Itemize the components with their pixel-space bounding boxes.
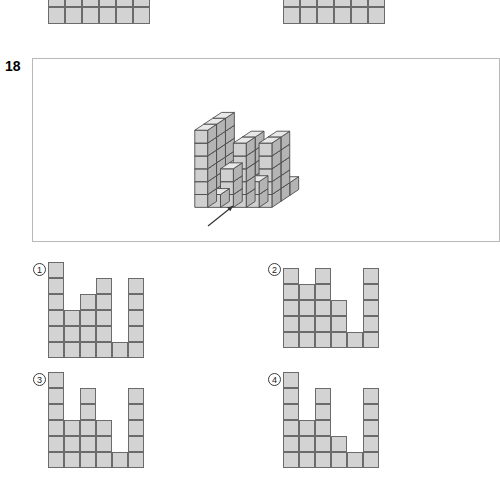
- grid-cell: [300, 7, 317, 24]
- grid-cell: [133, 0, 150, 7]
- grid-cell: [116, 0, 133, 7]
- option-shape-3[interactable]: [48, 372, 144, 468]
- grid-cell: [334, 0, 351, 7]
- grid-cell: [128, 342, 144, 358]
- option-label-2[interactable]: 2: [268, 263, 281, 276]
- grid-cell: [128, 436, 144, 452]
- cube-face: [233, 143, 246, 156]
- grid-cell: [283, 372, 299, 388]
- grid-cell: [315, 284, 331, 300]
- grid-cell: [65, 0, 82, 7]
- grid-cell: [315, 452, 331, 468]
- grid-cell: [112, 342, 128, 358]
- grid-cell: [48, 342, 64, 358]
- grid-cell: [48, 294, 64, 310]
- option-label-4[interactable]: 4: [268, 373, 281, 386]
- grid-cell: [283, 452, 299, 468]
- cube-face: [195, 130, 208, 143]
- grid-cell: [299, 420, 315, 436]
- grid-cell: [80, 294, 96, 310]
- grid-cell: [283, 0, 300, 7]
- grid-cell: [299, 332, 315, 348]
- grid-cell: [80, 436, 96, 452]
- grid-cell: [48, 7, 65, 24]
- grid-cell: [99, 7, 116, 24]
- grid-cell: [48, 404, 64, 420]
- cube-face: [259, 143, 272, 156]
- option-shape-1[interactable]: [48, 262, 144, 358]
- cube-face: [195, 195, 208, 208]
- question-figure-frame: [32, 58, 500, 242]
- option-shape-2[interactable]: [283, 268, 379, 348]
- grid-cell: [116, 7, 133, 24]
- grid-cell: [315, 332, 331, 348]
- option-shape-4[interactable]: [283, 372, 379, 468]
- grid-cell: [99, 0, 116, 7]
- grid-cell: [64, 310, 80, 326]
- cube-face: [195, 169, 208, 182]
- grid-cell: [334, 7, 351, 24]
- grid-cell: [96, 342, 112, 358]
- grid-cell: [96, 326, 112, 342]
- grid-cell: [283, 7, 300, 24]
- grid-cell: [363, 316, 379, 332]
- grid-cell: [96, 294, 112, 310]
- grid-cell: [351, 0, 368, 7]
- grid-cell: [300, 0, 317, 7]
- grid-cell: [283, 388, 299, 404]
- grid-cell: [299, 436, 315, 452]
- grid-cell: [64, 436, 80, 452]
- cube-face: [195, 182, 208, 195]
- grid-cell: [317, 7, 334, 24]
- grid-cell: [48, 388, 64, 404]
- grid-cell: [48, 436, 64, 452]
- grid-cell: [48, 262, 64, 278]
- grid-cell: [363, 436, 379, 452]
- grid-cell: [283, 332, 299, 348]
- grid-cell: [363, 388, 379, 404]
- grid-cell: [64, 342, 80, 358]
- grid-cell: [331, 452, 347, 468]
- grid-cell: [351, 7, 368, 24]
- grid-cell: [96, 436, 112, 452]
- grid-cell: [283, 436, 299, 452]
- grid-cell: [315, 404, 331, 420]
- grid-cell: [128, 388, 144, 404]
- grid-cell: [363, 284, 379, 300]
- grid-cell: [48, 310, 64, 326]
- grid-cell: [283, 284, 299, 300]
- grid-cell: [363, 300, 379, 316]
- grid-cell: [283, 404, 299, 420]
- cube-face: [195, 143, 208, 156]
- grid-cell: [48, 372, 64, 388]
- cut-shape-left: [48, 0, 150, 24]
- grid-cell: [315, 268, 331, 284]
- grid-cell: [363, 268, 379, 284]
- option-label-1[interactable]: 1: [33, 263, 46, 276]
- grid-cell: [64, 326, 80, 342]
- grid-cell: [80, 342, 96, 358]
- grid-cell: [317, 0, 334, 7]
- grid-cell: [331, 332, 347, 348]
- grid-cell: [48, 326, 64, 342]
- grid-cell: [363, 420, 379, 436]
- grid-cell: [315, 436, 331, 452]
- grid-cell: [48, 278, 64, 294]
- grid-cell: [64, 420, 80, 436]
- grid-cell: [82, 0, 99, 7]
- grid-cell: [299, 284, 315, 300]
- grid-cell: [96, 278, 112, 294]
- grid-cell: [80, 452, 96, 468]
- option-label-3[interactable]: 3: [33, 373, 46, 386]
- grid-cell: [48, 452, 64, 468]
- grid-cell: [80, 388, 96, 404]
- grid-cell: [283, 268, 299, 284]
- cube-face: [195, 156, 208, 169]
- grid-cell: [331, 436, 347, 452]
- grid-cell: [368, 7, 385, 24]
- grid-cell: [112, 452, 128, 468]
- grid-cell: [80, 326, 96, 342]
- grid-cell: [128, 278, 144, 294]
- grid-cell: [299, 300, 315, 316]
- grid-cell: [82, 7, 99, 24]
